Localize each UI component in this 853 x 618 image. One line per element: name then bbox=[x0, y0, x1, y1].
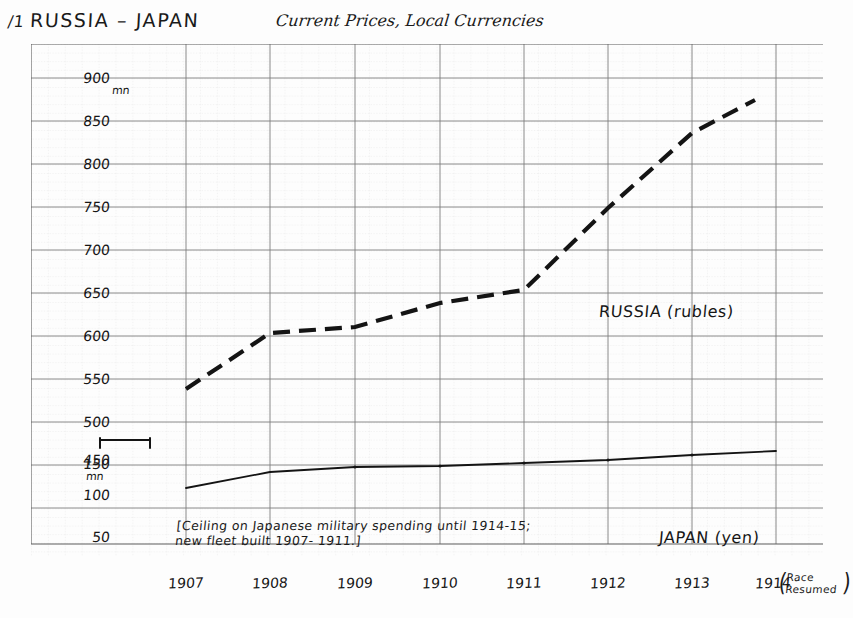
y-tick-800: 800 bbox=[63, 156, 111, 172]
y-tick-700: 700 bbox=[63, 242, 111, 258]
y-unit-mn-bottom: mn bbox=[85, 470, 104, 483]
series-label-russia: RUSSIA (rubles) bbox=[598, 302, 735, 321]
y-tick-850: 850 bbox=[63, 113, 111, 129]
x-tick-1910: 1910 bbox=[411, 574, 468, 592]
series-line-japan bbox=[186, 451, 776, 488]
y-tick-500: 500 bbox=[63, 414, 111, 430]
x-tick-1908: 1908 bbox=[241, 574, 298, 592]
x-tick-1913: 1913 bbox=[663, 574, 720, 592]
series-label-japan: JAPAN (yen) bbox=[658, 528, 760, 547]
chart-subtitle: Current Prices, Local Currencies bbox=[275, 11, 545, 30]
chart-page: /1 RUSSIA – JAPAN Current Prices, Local … bbox=[0, 0, 853, 618]
x-tick-1909: 1909 bbox=[326, 574, 383, 592]
y-tick-600: 600 bbox=[63, 328, 111, 344]
y-tick-100: 100 bbox=[63, 487, 111, 503]
y-unit-mn-top: mn bbox=[111, 84, 130, 97]
series-line-russia bbox=[186, 100, 755, 389]
axis-break-bracket bbox=[98, 437, 152, 449]
plot-area: RUSSIA (rubles) JAPAN (yen) bbox=[31, 44, 823, 556]
y-tick-650: 650 bbox=[63, 285, 111, 301]
chart-header: /1 RUSSIA – JAPAN Current Prices, Local … bbox=[0, 0, 853, 46]
data-series-layer bbox=[31, 44, 823, 556]
footnote-annotation: [Ceiling on Japanese military spending u… bbox=[174, 518, 577, 548]
page-number: /1 bbox=[7, 12, 26, 31]
y-tick-750: 750 bbox=[63, 199, 111, 215]
y-tick-50: 50 bbox=[63, 529, 111, 545]
race-resumed-annotation: Race Resumed bbox=[785, 572, 839, 595]
race-note-paren-right: ) bbox=[841, 567, 852, 597]
page-title: RUSSIA – JAPAN bbox=[29, 9, 200, 31]
x-tick-1911: 1911 bbox=[495, 574, 552, 592]
x-tick-1912: 1912 bbox=[579, 574, 636, 592]
y-tick-550: 550 bbox=[63, 371, 111, 387]
y-tick-900: 900 bbox=[63, 70, 111, 86]
x-tick-1907: 1907 bbox=[157, 574, 214, 592]
